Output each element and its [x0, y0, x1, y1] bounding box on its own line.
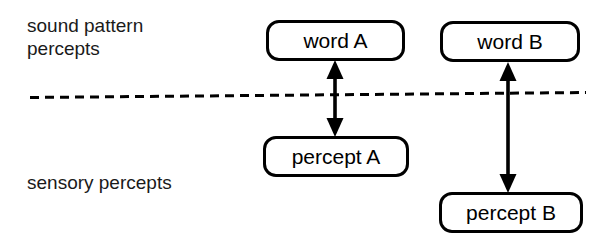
arrowhead-up-a	[327, 60, 344, 79]
connector-word-a-percept-a	[327, 60, 344, 137]
node-word-a[interactable]: word A	[266, 20, 405, 61]
arrowhead-down-a	[327, 118, 344, 137]
connector-word-b-percept-b	[500, 62, 517, 193]
node-percept-a[interactable]: percept A	[263, 136, 409, 177]
node-word-b[interactable]: word B	[440, 21, 580, 62]
arrowhead-down-b	[500, 174, 517, 193]
node-percept-b[interactable]: percept B	[439, 192, 583, 233]
diagram-canvas: sound pattern percepts sensory percepts …	[0, 0, 609, 243]
arrowhead-up-b	[500, 62, 517, 81]
